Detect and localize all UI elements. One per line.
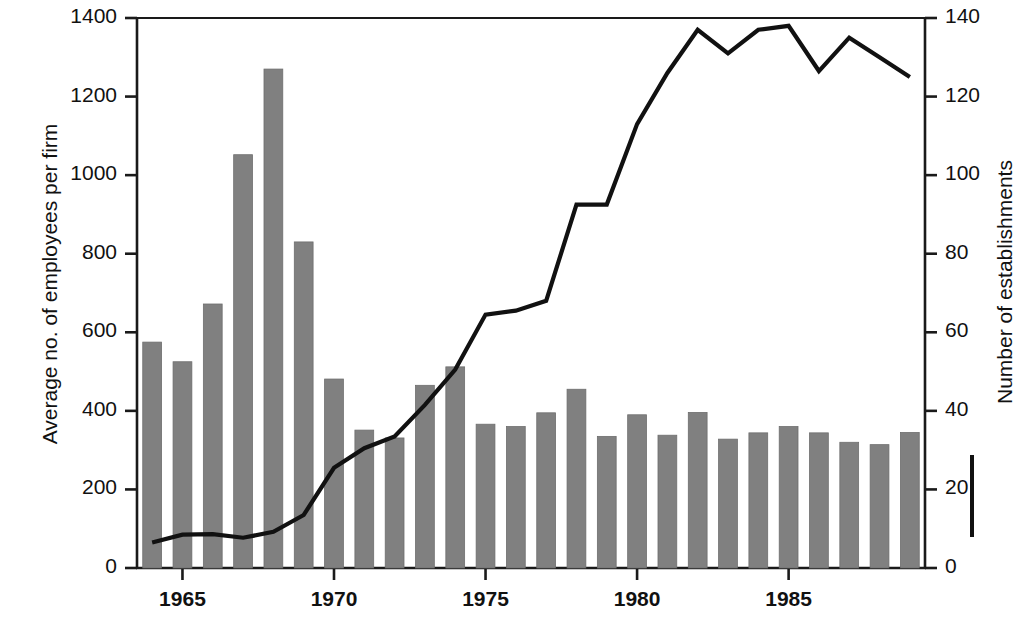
x-tick-1965: 1965 bbox=[137, 587, 227, 611]
x-tick-1980: 1980 bbox=[592, 587, 682, 611]
bar-1972 bbox=[385, 438, 404, 568]
x-tick-1970: 1970 bbox=[289, 587, 379, 611]
y-tick-left-1200: 1200 bbox=[47, 83, 117, 107]
y-tick-right-20: 20 bbox=[945, 475, 1005, 499]
x-tick-1985: 1985 bbox=[744, 587, 834, 611]
bar-1989 bbox=[900, 432, 919, 568]
y-tick-right-120: 120 bbox=[945, 83, 1005, 107]
bar-series-group bbox=[143, 69, 919, 568]
bar-1966 bbox=[203, 304, 222, 568]
x-tick-1975: 1975 bbox=[441, 587, 531, 611]
bar-1981 bbox=[658, 435, 677, 568]
y-tick-right-40: 40 bbox=[945, 397, 1005, 421]
y-tick-left-400: 400 bbox=[47, 397, 117, 421]
y-tick-right-60: 60 bbox=[945, 318, 1005, 342]
y-tick-left-800: 800 bbox=[47, 240, 117, 264]
y-tick-right-140: 140 bbox=[945, 4, 1005, 28]
bar-1987 bbox=[840, 442, 859, 568]
bar-1970 bbox=[325, 379, 344, 568]
y-tick-right-100: 100 bbox=[945, 161, 1005, 185]
y-tick-right-80: 80 bbox=[945, 240, 1005, 264]
y-tick-left-0: 0 bbox=[47, 554, 117, 578]
bar-1979 bbox=[597, 436, 616, 568]
bar-1984 bbox=[749, 433, 768, 568]
bar-1964 bbox=[143, 342, 162, 568]
bar-1985 bbox=[779, 427, 798, 568]
bar-1967 bbox=[234, 155, 253, 568]
bar-1968 bbox=[264, 69, 283, 568]
bar-1976 bbox=[506, 427, 525, 568]
y-tick-left-1000: 1000 bbox=[47, 161, 117, 185]
bar-1977 bbox=[537, 413, 556, 568]
bar-1975 bbox=[476, 424, 495, 568]
bar-1978 bbox=[567, 389, 586, 568]
bar-1988 bbox=[870, 445, 889, 568]
y-tick-left-200: 200 bbox=[47, 475, 117, 499]
bar-1982 bbox=[688, 412, 707, 568]
bar-1974 bbox=[446, 367, 465, 568]
bar-1983 bbox=[719, 439, 738, 568]
y-tick-left-600: 600 bbox=[47, 318, 117, 342]
y-tick-right-0: 0 bbox=[945, 554, 1005, 578]
y-tick-left-1400: 1400 bbox=[47, 4, 117, 28]
bar-1980 bbox=[628, 415, 647, 568]
bar-1986 bbox=[810, 433, 829, 568]
